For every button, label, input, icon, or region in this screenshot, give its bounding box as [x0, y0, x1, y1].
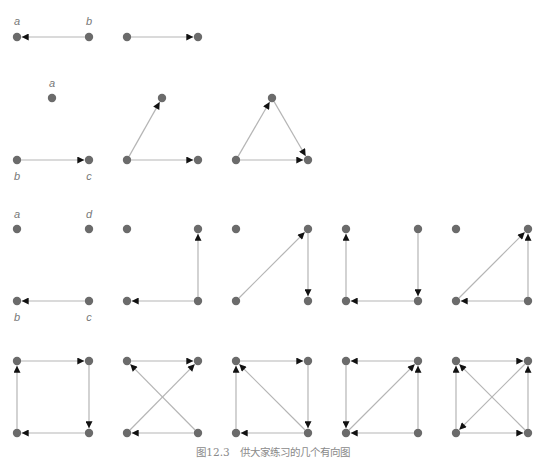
graph-node [194, 297, 202, 305]
graph-node [158, 94, 166, 102]
node-label: a [14, 208, 20, 220]
nodes-layer [13, 33, 532, 437]
graph-r3c3 [239, 232, 308, 298]
node-label: b [14, 311, 20, 323]
graph-node [304, 156, 312, 164]
directed-edge [349, 364, 415, 430]
graph-node [123, 33, 131, 41]
directed-edge [129, 102, 160, 156]
graph-node [123, 156, 131, 164]
graph-r3c5 [459, 232, 528, 301]
graph-node [452, 297, 460, 305]
graph-r3c4 [346, 233, 418, 301]
graph-node [342, 429, 350, 437]
figure-caption: 图12.3 供大家练习的几个有向图 [0, 444, 546, 459]
graph-node [194, 225, 202, 233]
graph-node [123, 429, 131, 437]
graph-node [123, 225, 131, 233]
graph-node [342, 297, 350, 305]
graph-r4c2 [130, 361, 195, 433]
graph-r4c3 [236, 361, 308, 433]
graph-r2c2 [129, 102, 193, 160]
graph-node [452, 225, 460, 233]
graph-node [304, 297, 312, 305]
graph-node [524, 357, 532, 365]
graph-node [524, 297, 532, 305]
graph-node [414, 225, 422, 233]
graph-node [194, 33, 202, 41]
graph-r4c4 [346, 361, 418, 433]
graph-node [13, 156, 21, 164]
graph-r3c2 [132, 234, 198, 301]
graph-node [85, 429, 93, 437]
node-label: b [86, 15, 92, 27]
graph-node [414, 429, 422, 437]
directed-graphs-figure: ababcadbc [0, 0, 546, 463]
graph-node [13, 297, 21, 305]
node-label: b [14, 170, 20, 182]
node-label: a [49, 77, 55, 89]
graph-node [414, 357, 422, 365]
graph-node [194, 156, 202, 164]
graph-node [85, 357, 93, 365]
node-label: c [86, 170, 92, 182]
graph-node [85, 297, 93, 305]
directed-edge [239, 364, 305, 430]
directed-edge [459, 232, 525, 298]
directed-edge [274, 102, 306, 156]
graph-node [232, 357, 240, 365]
graph-r2c3 [238, 102, 306, 160]
labels-layer: ababcadbc [14, 15, 93, 323]
graph-node [524, 225, 532, 233]
graph-node [524, 429, 532, 437]
graph-node [452, 429, 460, 437]
graph-node [13, 357, 21, 365]
directed-edge [238, 102, 270, 156]
node-label: c [86, 311, 92, 323]
graph-r4c1 [17, 361, 89, 433]
graph-node [194, 429, 202, 437]
graph-node [13, 429, 21, 437]
node-label: d [86, 208, 93, 220]
graph-node [342, 225, 350, 233]
graph-node [85, 156, 93, 164]
graph-node [85, 33, 93, 41]
graph-node [304, 357, 312, 365]
graph-node [268, 94, 276, 102]
graph-node [232, 156, 240, 164]
graph-node [13, 225, 21, 233]
graph-node [232, 225, 240, 233]
graph-node [48, 94, 56, 102]
graph-node [232, 297, 240, 305]
graph-node [414, 297, 422, 305]
graph-node [85, 225, 93, 233]
node-label: a [14, 15, 20, 27]
graph-node [452, 357, 460, 365]
graph-node [342, 357, 350, 365]
graph-node [304, 429, 312, 437]
graph-r4c5 [456, 361, 528, 433]
directed-edge [239, 232, 305, 298]
graph-node [123, 297, 131, 305]
graph-node [232, 429, 240, 437]
graph-node [304, 225, 312, 233]
graph-node [194, 357, 202, 365]
graph-node [13, 33, 21, 41]
graph-node [123, 357, 131, 365]
